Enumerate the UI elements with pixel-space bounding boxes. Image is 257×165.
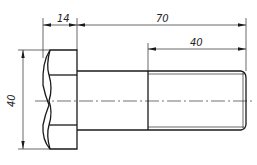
dim-text-40-thread: 40	[190, 37, 203, 48]
dim-text-40-height: 40	[6, 94, 17, 107]
dim-text-14: 14	[57, 13, 70, 24]
dimension-thread-length: 40	[148, 37, 246, 51]
hex-head	[43, 50, 77, 149]
bolt-drawing: 14 70 40 40	[0, 0, 257, 165]
dimension-head-height: 40	[6, 50, 25, 149]
dimension-bolt-length: 70	[77, 13, 246, 27]
thread	[148, 71, 246, 130]
dim-text-70: 70	[156, 13, 169, 24]
shank	[77, 71, 148, 130]
dimension-head-length: 14	[43, 13, 77, 27]
